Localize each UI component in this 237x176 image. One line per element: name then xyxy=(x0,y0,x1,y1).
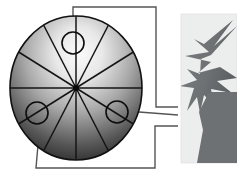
figure-root xyxy=(0,0,237,176)
figure-canvas xyxy=(0,0,237,176)
disc-hub xyxy=(73,85,79,91)
starburst-inset-panel[interactable] xyxy=(180,14,237,163)
